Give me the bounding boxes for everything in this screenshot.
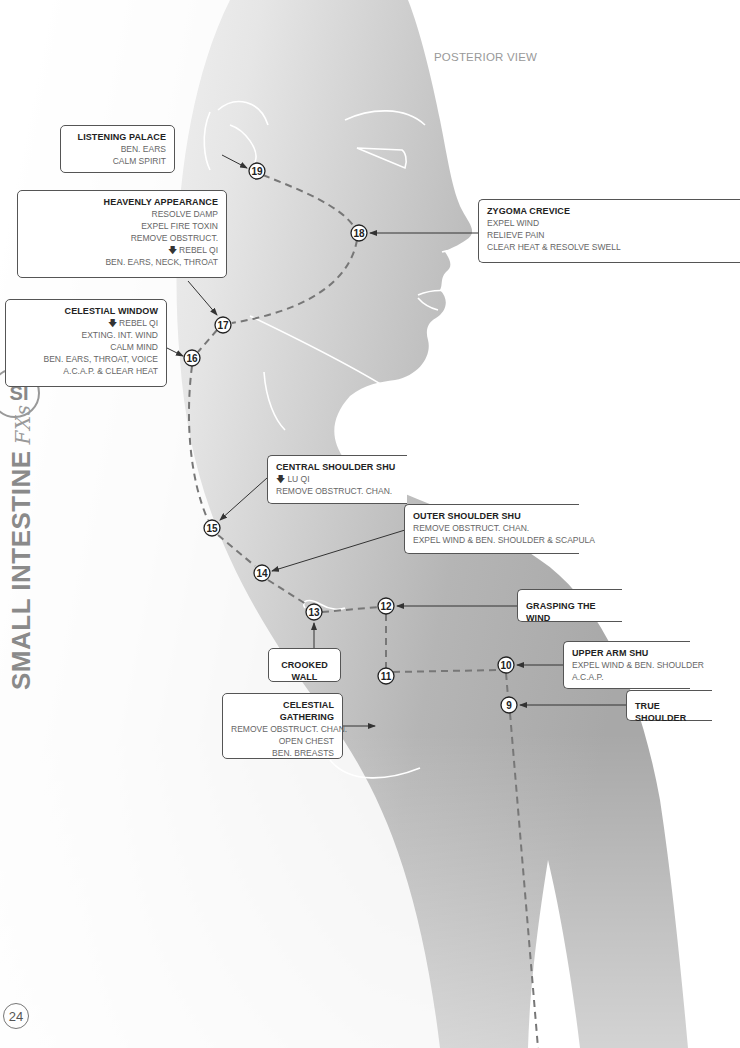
svg-text:18: 18 — [353, 228, 365, 239]
label-true-shoulder: TRUE SHOULDER — [626, 690, 712, 721]
svg-text:14: 14 — [256, 568, 268, 579]
down-arrow-icon: 🡇 — [108, 318, 117, 328]
label-listening-palace: LISTENING PALACE BEN. EARS CALM SPIRIT — [60, 125, 175, 173]
svg-text:19: 19 — [251, 166, 263, 177]
svg-text:15: 15 — [206, 523, 218, 534]
page-number: 24 — [3, 1003, 29, 1029]
section-subtitle: FXs — [11, 405, 35, 445]
point-11[interactable]: 11 — [378, 668, 394, 684]
label-celestial-gathering: CELESTIAL GATHERING REMOVE OBSTRUCT. CHA… — [222, 693, 343, 759]
label-zygoma-crevice: ZYGOMA CREVICE EXPEL WIND RELIEVE PAIN C… — [478, 199, 740, 263]
point-19[interactable]: 19 — [249, 163, 265, 179]
point-17[interactable]: 17 — [215, 317, 231, 333]
point-12[interactable]: 12 — [378, 598, 394, 614]
svg-text:11: 11 — [381, 671, 392, 682]
point-9[interactable]: 9 — [501, 697, 517, 713]
down-arrow-icon: 🡇 — [168, 245, 177, 255]
point-10[interactable]: 10 — [498, 657, 514, 673]
view-label: POSTERIOR VIEW — [434, 51, 537, 63]
svg-text:12: 12 — [380, 601, 392, 612]
point-16[interactable]: 16 — [184, 350, 200, 366]
label-central-shoulder-shu: CENTRAL SHOULDER SHU 🡇 LU QI REMOVE OBST… — [267, 455, 407, 504]
point-13[interactable]: 13 — [306, 604, 322, 620]
section-title-text: SMALL INTESTINE — [6, 450, 36, 690]
point-14[interactable]: 14 — [254, 565, 270, 581]
svg-text:9: 9 — [506, 700, 512, 711]
label-grasping-the-wind: GRASPING THE WIND — [517, 589, 622, 622]
down-arrow-icon: 🡇 — [276, 474, 285, 484]
label-celestial-window: CELESTIAL WINDOW 🡇 REBEL QI EXTING. INT.… — [5, 299, 167, 387]
svg-text:10: 10 — [500, 660, 512, 671]
label-outer-shoulder-shu: OUTER SHOULDER SHU REMOVE OBSTRUCT. CHAN… — [404, 504, 579, 554]
svg-text:13: 13 — [308, 607, 320, 618]
label-crooked-wall: CROOKED WALL — [268, 648, 341, 682]
svg-text:16: 16 — [186, 353, 198, 364]
label-title: LISTENING PALACE — [69, 131, 166, 143]
svg-text:17: 17 — [217, 320, 229, 331]
section-title: SMALL INTESTINEFXs — [6, 405, 37, 690]
point-18[interactable]: 18 — [351, 225, 367, 241]
label-heavenly-appearance: HEAVENLY APPEARANCE RESOLVE DAMP EXPEL F… — [17, 190, 227, 278]
label-upper-arm-shu: UPPER ARM SHU EXPEL WIND & BEN. SHOULDER… — [563, 641, 690, 689]
point-15[interactable]: 15 — [204, 520, 220, 536]
